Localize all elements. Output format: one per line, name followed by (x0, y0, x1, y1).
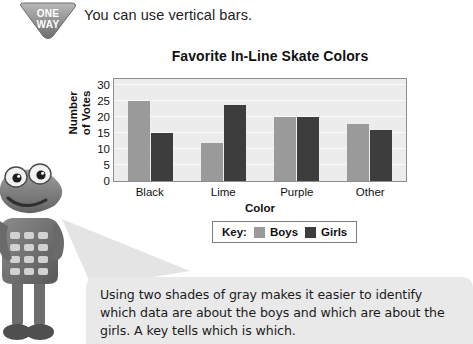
chart-plot-area (113, 78, 407, 182)
bar-purple-girls (297, 117, 319, 181)
caption-text: Using two shades of gray makes it easier… (100, 286, 461, 340)
legend-swatch-boys (254, 227, 265, 238)
legend-label-girls: Girls (321, 226, 347, 238)
legend-entry-girls: Girls (305, 226, 347, 238)
bar-other-girls (370, 130, 392, 181)
page-root: ONE WAY You can use vertical bars. Favor… (0, 0, 473, 344)
top-instruction-text: You can use vertical bars. (84, 7, 252, 23)
bar-black-girls (151, 133, 173, 181)
chart-title: Favorite In-Line Skate Colors (120, 48, 420, 64)
gridline (114, 116, 406, 117)
one-way-sign-line1: ONE (37, 8, 60, 19)
bar-other-boys (347, 124, 369, 181)
x-axis-label-lime: Lime (187, 186, 261, 202)
y-axis-tick-10: 10 (97, 143, 110, 155)
one-way-sign-line2: WAY (37, 19, 60, 30)
bar-lime-boys (201, 143, 223, 181)
y-axis-tick-15: 15 (97, 127, 110, 139)
x-axis-label-black: Black (113, 186, 187, 202)
legend-entry-boys: Boys (254, 226, 298, 238)
y-axis-tick-5: 5 (104, 159, 110, 171)
y-axis-tick-30: 30 (97, 80, 110, 92)
chart-legend: Key: BoysGirls (212, 221, 357, 243)
gridline (114, 100, 406, 101)
x-axis-label-other: Other (334, 186, 408, 202)
gridline (114, 84, 406, 85)
bar-purple-boys (274, 117, 296, 181)
x-axis-labels: BlackLimePurpleOther (113, 186, 407, 202)
legend-label-boys: Boys (270, 226, 298, 238)
legend-title: Key: (222, 226, 247, 238)
y-axis-tick-20: 20 (97, 112, 110, 124)
bar-lime-girls (224, 105, 246, 182)
y-axis-tick-0: 0 (104, 175, 110, 187)
caption-bubble: Using two shades of gray makes it easier… (86, 277, 473, 344)
x-axis-title: Color (113, 202, 407, 214)
x-axis-label-purple: Purple (260, 186, 334, 202)
legend-swatch-girls (305, 227, 316, 238)
bar-black-boys (128, 101, 150, 181)
one-way-sign-icon: ONE WAY (17, 2, 79, 40)
y-axis-tick-25: 25 (97, 96, 110, 108)
